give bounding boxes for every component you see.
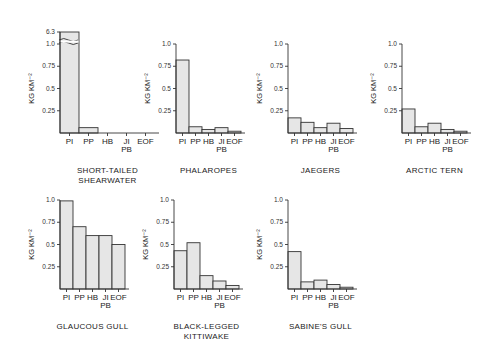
y-tick-label: 0.75 xyxy=(156,218,169,225)
bar-pp xyxy=(79,128,98,133)
y-tick-label: 0.75 xyxy=(270,62,283,69)
bar-ji-pb xyxy=(215,128,228,133)
bar-pi xyxy=(288,252,301,289)
bar-pi xyxy=(176,60,189,133)
y-tick-label: 0.75 xyxy=(270,218,283,225)
y-tick-label: 0.5 xyxy=(274,85,283,92)
x-tick-label: HB xyxy=(315,137,326,146)
y-tick-label: 0.5 xyxy=(274,241,283,248)
y-tick-label: 0.25 xyxy=(384,107,397,114)
y-axis-label: KG KM⁻² xyxy=(255,229,264,260)
y-tick-label: 0.5 xyxy=(162,85,171,92)
x-tick-label: EOF xyxy=(110,293,127,302)
x-tick-label: PI xyxy=(177,293,185,302)
bar-pp xyxy=(415,127,428,133)
x-tick-label: HB xyxy=(315,293,326,302)
y-tick-label: 0.5 xyxy=(388,85,397,92)
bar-pp xyxy=(73,227,86,289)
y-axis-label: KG KM⁻² xyxy=(369,73,378,104)
chart-title: SABINE'S GULL xyxy=(289,322,352,331)
bar-ji-pb xyxy=(327,285,340,289)
x-tick-label: EOF xyxy=(224,293,241,302)
y-tick-label: 1.0 xyxy=(162,40,171,47)
bar-hb xyxy=(314,280,327,289)
x-tick-label: PB xyxy=(100,301,111,310)
bar-pi xyxy=(60,201,73,289)
bar-pi xyxy=(60,32,79,133)
figure: 0.250.50.751.06.3PIPPHBJIPBEOFKG KM⁻²SHO… xyxy=(0,0,497,351)
chart-panel-3: 0.250.50.751.0PIPPHBJIPBEOFKG KM⁻²ARCTIC… xyxy=(369,40,471,175)
y-tick-label: 0.25 xyxy=(42,263,55,270)
y-axis-label: KG KM⁻² xyxy=(143,73,152,104)
x-tick-label: HB xyxy=(429,137,440,146)
bar-pp xyxy=(301,282,314,289)
y-tick-label: 0.75 xyxy=(384,62,397,69)
x-tick-label: PP xyxy=(302,137,313,146)
bar-pi xyxy=(402,109,415,133)
x-tick-label: PI xyxy=(291,137,299,146)
chart-title: BLACK-LEGGED xyxy=(174,322,240,331)
y-tick-label: 1.0 xyxy=(160,196,169,203)
chart-panel-2: 0.250.50.751.0PIPPHBJIPBEOFKG KM⁻²JAEGER… xyxy=(255,40,357,175)
x-tick-label: PB xyxy=(328,301,339,310)
x-tick-label: EOF xyxy=(452,137,469,146)
x-tick-label: PB xyxy=(216,145,227,154)
x-tick-label: EOF xyxy=(338,137,355,146)
x-tick-label: HB xyxy=(87,293,98,302)
bar-pi xyxy=(288,118,301,133)
y-tick-label: 0.25 xyxy=(158,107,171,114)
x-tick-label: PB xyxy=(328,145,339,154)
chart-panel-4: 0.250.50.751.0PIPPHBJIPBEOFKG KM⁻²GLAUCO… xyxy=(27,196,129,331)
x-tick-label: PB xyxy=(214,301,225,310)
bar-pi xyxy=(174,251,187,289)
chart-panel-6: 0.250.50.751.0PIPPHBJIPBEOFKG KM⁻²SABINE… xyxy=(255,196,357,331)
y-tick-label: 1.0 xyxy=(46,40,55,47)
x-tick-label: HB xyxy=(201,293,212,302)
y-tick-label: 0.75 xyxy=(42,62,55,69)
x-tick-label: PP xyxy=(302,293,313,302)
bar-pp xyxy=(187,243,200,289)
y-axis-label: KG KM⁻² xyxy=(255,73,264,104)
bar-eof xyxy=(112,245,125,290)
chart-title: PHALAROPES xyxy=(180,166,237,175)
chart-title: SHEARWATER xyxy=(78,176,136,185)
y-tick-label: 0.75 xyxy=(158,62,171,69)
y-axis-label: KG KM⁻² xyxy=(27,229,36,260)
x-tick-label: EOF xyxy=(137,137,154,146)
y-tick-label: 1.0 xyxy=(274,40,283,47)
bar-ji-pb xyxy=(213,281,226,289)
x-tick-label: PP xyxy=(188,293,199,302)
y-tick-label: 0.75 xyxy=(42,218,55,225)
bar-pp xyxy=(301,122,314,133)
bar-hb xyxy=(428,123,441,133)
y-tick-label: 0.5 xyxy=(160,241,169,248)
y-tick-label: 0.25 xyxy=(270,107,283,114)
x-tick-label: HB xyxy=(102,137,113,146)
x-tick-label: PP xyxy=(416,137,427,146)
bar-ji-pb xyxy=(441,129,454,133)
bar-ji-pb xyxy=(99,236,112,289)
y-tick-label: 0.25 xyxy=(156,263,169,270)
chart-title: KITTIWAKE xyxy=(184,332,230,341)
y-axis-label: KG KM⁻² xyxy=(141,229,150,260)
x-tick-label: PP xyxy=(190,137,201,146)
y-tick-label: 6.3 xyxy=(46,28,55,35)
x-tick-label: PB xyxy=(121,145,132,154)
y-tick-label: 0.25 xyxy=(270,263,283,270)
x-tick-label: PP xyxy=(74,293,85,302)
y-tick-label: 0.5 xyxy=(46,85,55,92)
y-tick-label: 1.0 xyxy=(46,196,55,203)
x-tick-label: PP xyxy=(83,137,94,146)
x-tick-label: PI xyxy=(291,293,299,302)
y-tick-label: 1.0 xyxy=(388,40,397,47)
axis-break-gap xyxy=(61,41,79,43)
x-tick-label: HB xyxy=(203,137,214,146)
bar-eof xyxy=(226,285,239,289)
chart-title: ARCTIC TERN xyxy=(406,166,463,175)
bar-pp xyxy=(189,127,202,133)
x-tick-label: PI xyxy=(405,137,413,146)
chart-title: JAEGERS xyxy=(301,166,340,175)
y-tick-label: 0.5 xyxy=(46,241,55,248)
x-tick-label: PB xyxy=(442,145,453,154)
bar-ji-pb xyxy=(327,123,340,133)
